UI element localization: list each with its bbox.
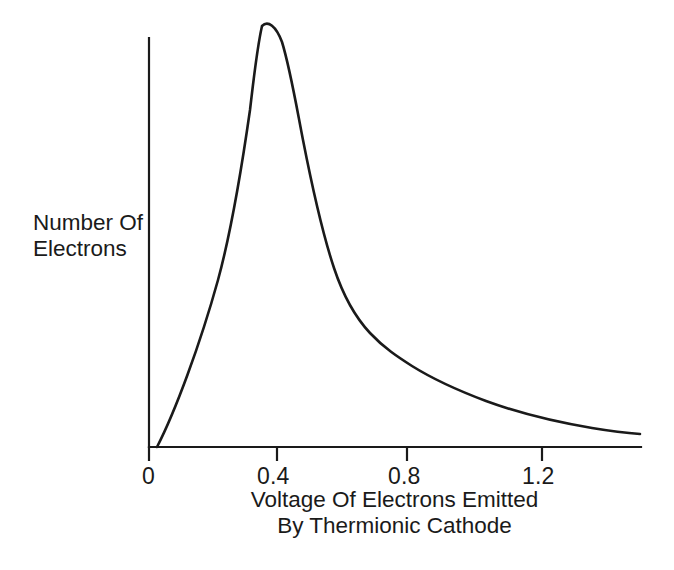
x-axis-title-line-2: By Thermionic Cathode — [149, 513, 640, 539]
y-axis-title: Number Of Electrons — [33, 210, 143, 262]
x-axis-title-line-1: Voltage Of Electrons Emitted — [149, 487, 640, 513]
y-axis-title-line-2: Electrons — [33, 236, 143, 262]
x-axis-title: Voltage Of Electrons Emitted By Thermion… — [149, 487, 640, 539]
x-tick-label-1-2: 1.2 — [522, 465, 555, 488]
x-tick-label-0-4: 0.4 — [257, 465, 290, 488]
y-axis-title-line-1: Number Of — [33, 210, 143, 236]
thermionic-emission-chart: 0 0.4 0.8 1.2 Number Of Electrons Voltag… — [0, 0, 674, 570]
x-tick-label-0-8: 0.8 — [388, 465, 421, 488]
x-tick-label-0: 0 — [142, 465, 155, 488]
electron-distribution-curve — [157, 24, 640, 447]
plot-area — [0, 0, 674, 570]
